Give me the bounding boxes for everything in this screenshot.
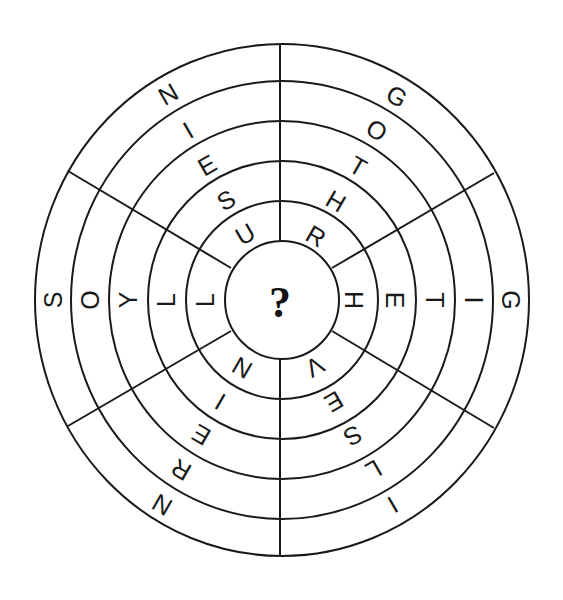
sector-left: S O Y L L [39, 290, 219, 309]
spoke-upper-right [332, 173, 494, 268]
letter: U [230, 217, 260, 250]
letter: S [39, 292, 67, 309]
letter: G [497, 290, 525, 309]
letter: I [178, 116, 198, 144]
letter: V [301, 351, 330, 384]
letter: Y [114, 291, 142, 308]
letter: I [383, 491, 403, 519]
spoke-lower-right [332, 331, 494, 428]
spoke-lower-left [68, 331, 231, 426]
letter: L [361, 454, 387, 485]
letter: I [210, 388, 230, 416]
letter: N [153, 77, 183, 110]
letter: T [421, 292, 449, 307]
sector-right: G I T E H [340, 290, 525, 309]
letter: L [152, 293, 180, 307]
center-question-mark: ? [269, 278, 291, 327]
letter: N [227, 351, 257, 384]
letter: S [212, 184, 240, 217]
letter: G [382, 79, 413, 113]
letter: I [460, 297, 488, 304]
letter: E [193, 149, 221, 182]
letter: T [344, 150, 371, 182]
letter: E [187, 419, 215, 452]
sector-lower-left: N R E I N [147, 351, 257, 521]
word-wheel-puzzle: ? N I E S U G O T H R S O Y L L G I T E … [0, 0, 563, 600]
letter: R [166, 453, 196, 486]
letter: R [301, 219, 331, 252]
letter: O [362, 113, 393, 147]
letter: H [340, 291, 368, 309]
letter: E [320, 386, 348, 419]
letter: O [76, 290, 104, 309]
letter: E [381, 292, 409, 309]
letter: L [191, 293, 219, 307]
